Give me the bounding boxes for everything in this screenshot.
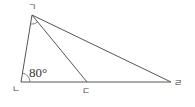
segment-a-d bbox=[32, 15, 171, 82]
angle-arc-a bbox=[31, 22, 38, 24]
vertex-label-a: ㄱ bbox=[28, 2, 36, 12]
vertex-label-c: ㄷ bbox=[82, 86, 90, 96]
angle-value-b: 80° bbox=[29, 65, 47, 80]
triangle-diagram: ㄱ ㄴ ㄷ ㄹ 80° bbox=[0, 0, 195, 107]
vertex-label-d: ㄹ bbox=[174, 78, 182, 88]
vertex-label-b: ㄴ bbox=[12, 84, 20, 94]
